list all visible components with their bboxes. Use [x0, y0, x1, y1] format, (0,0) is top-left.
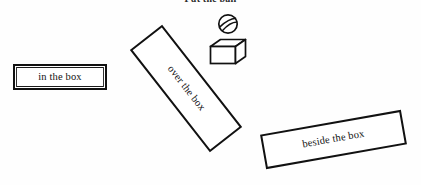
striped-ball-icon [217, 13, 239, 35]
page-title: Put the ball [0, 0, 421, 4]
option-card-beside-the-box[interactable]: beside the box [260, 110, 407, 169]
option-card-in-the-box[interactable]: in the box [13, 64, 107, 90]
option-label-in-the-box: in the box [38, 72, 82, 83]
option-label-over-the-box: over the box [165, 64, 207, 113]
open-cube-icon [209, 38, 247, 65]
stimulus-canvas: Put the ball in the box over the box bes… [0, 0, 421, 185]
option-label-beside-the-box: beside the box [302, 129, 366, 150]
